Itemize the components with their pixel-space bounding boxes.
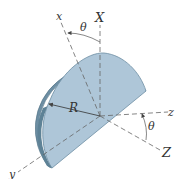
- label-theta-top: θ: [80, 21, 87, 34]
- label-R: R: [68, 101, 78, 115]
- label-y: y: [8, 168, 16, 179]
- theta-arc-right: [142, 114, 147, 140]
- label-z: z: [167, 106, 174, 119]
- disc-face: [43, 53, 146, 168]
- theta-arc-top: [68, 33, 100, 42]
- label-Z: Z: [161, 145, 172, 160]
- label-theta-right: θ: [148, 120, 155, 133]
- half-disc-diagram: x X θ R z θ Z y: [0, 0, 179, 179]
- label-X: X: [94, 10, 105, 25]
- label-x: x: [56, 10, 63, 23]
